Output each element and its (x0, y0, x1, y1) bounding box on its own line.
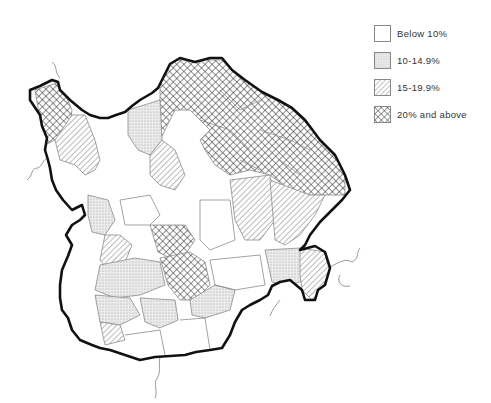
swatch-crosshatch-icon (374, 106, 391, 123)
legend-item-below-10: Below 10% (374, 20, 491, 47)
swatch-stipple-icon (374, 52, 391, 69)
river-s (155, 357, 160, 398)
legend: Below 10% 10-14.9% 15-19.9% 20% and abov… (374, 20, 491, 128)
river-w (27, 158, 48, 180)
river-se (270, 300, 280, 316)
legend-label: 20% and above (397, 109, 467, 120)
legend-label: 10-14.9% (397, 55, 440, 66)
legend-label: Below 10% (397, 28, 447, 39)
river-e (328, 248, 360, 286)
river-nw (52, 62, 60, 78)
legend-label: 15-19.9% (397, 82, 440, 93)
legend-item-10-14-9: 10-14.9% (374, 47, 491, 74)
swatch-hatch-icon (374, 79, 391, 96)
legend-item-15-19-9: 15-19.9% (374, 74, 491, 101)
legend-item-20-above: 20% and above (374, 101, 491, 128)
swatch-blank-icon (374, 25, 391, 42)
